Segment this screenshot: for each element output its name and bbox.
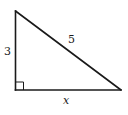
horizontal-leg-label: x — [63, 94, 70, 107]
hypotenuse — [16, 11, 122, 90]
right-triangle-diagram: 3 5 x — [0, 0, 128, 115]
right-angle-marker-icon — [16, 82, 24, 90]
hypotenuse-label: 5 — [68, 33, 75, 46]
vertical-leg-label: 3 — [4, 45, 11, 58]
